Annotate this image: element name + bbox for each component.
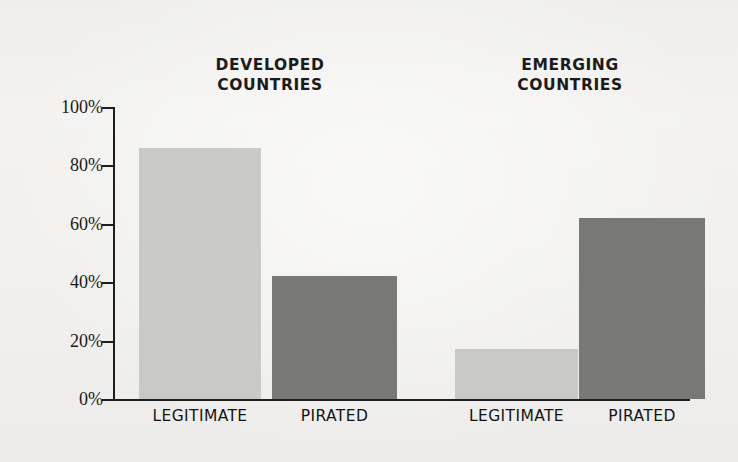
bar-chart: DEVELOPED COUNTRIES EMERGING COUNTRIES 1… [0, 0, 738, 462]
y-axis-label-40: 40% [9, 273, 103, 291]
group-heading-emerging-line1: EMERGING [521, 56, 619, 74]
y-axis-tick-60 [102, 224, 113, 226]
y-axis-tick-20 [102, 341, 113, 343]
y-axis-label-0: 0% [9, 390, 103, 408]
bar-1-legitimate [139, 148, 261, 399]
group-heading-developed-line1: DEVELOPED [216, 56, 325, 74]
y-axis-label-80: 80% [9, 156, 103, 174]
plot-area: 100%80%60%40%20%0% [113, 107, 710, 401]
y-axis-tick-0 [102, 399, 113, 401]
x-axis-label-1-legitimate: LEGITIMATE [127, 406, 273, 426]
y-axis-tick-80 [102, 165, 113, 167]
x-axis-line [113, 399, 690, 401]
group-heading-developed-line2: COUNTRIES [140, 75, 400, 95]
y-axis-label-60: 60% [9, 215, 103, 233]
y-axis-tick-100 [102, 107, 113, 109]
y-axis-label-100: 100% [9, 98, 103, 116]
x-axis-label-2-pirated: PIRATED [260, 406, 409, 426]
bar-3-legitimate [455, 349, 578, 399]
group-heading-developed: DEVELOPED COUNTRIES [140, 55, 400, 95]
bar-2-pirated [272, 276, 397, 399]
bar-4-pirated [579, 218, 705, 399]
group-heading-emerging-line2: COUNTRIES [440, 75, 700, 95]
group-heading-emerging: EMERGING COUNTRIES [440, 55, 700, 95]
x-axis-label-4-pirated: PIRATED [567, 406, 717, 426]
y-axis-tick-40 [102, 282, 113, 284]
y-axis-line [113, 107, 115, 401]
y-axis-label-20: 20% [9, 332, 103, 350]
y-axis-labels: 100%80%60%40%20%0% [9, 107, 103, 401]
